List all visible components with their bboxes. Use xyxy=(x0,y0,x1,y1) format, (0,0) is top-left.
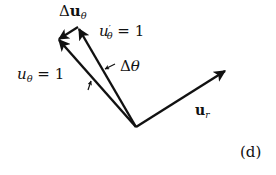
u-theta-prime-vector xyxy=(79,29,136,127)
symbol: u xyxy=(17,65,27,83)
u-r-label: ur xyxy=(195,103,210,120)
delta-theta-arrow-upper xyxy=(105,64,115,69)
delta-theta-label: Δθ xyxy=(120,59,140,74)
delta-theta-arrow-lower xyxy=(88,81,91,90)
u-theta-prime-label: u′θ = 1 xyxy=(99,24,144,41)
vector-symbol: u xyxy=(195,102,205,118)
subscript: θ xyxy=(81,10,87,21)
equals-one: = 1 xyxy=(113,22,145,40)
panel-label: (d) xyxy=(240,145,261,160)
u-r-vector xyxy=(136,71,225,127)
vector-diagram: Δuθ u′θ = 1 Δθ uθ = 1 ur (d) xyxy=(0,0,276,175)
u-theta-vector xyxy=(59,40,136,127)
delta-u-theta-label: Δuθ xyxy=(59,4,87,21)
u-theta-label: uθ = 1 xyxy=(17,67,64,84)
equals-one: = 1 xyxy=(33,65,65,83)
delta-symbol: Δ xyxy=(120,57,131,75)
subscript: r xyxy=(205,110,209,120)
delta-symbol: Δ xyxy=(59,2,70,20)
theta-symbol: θ xyxy=(131,57,140,75)
vector-symbol: u xyxy=(70,2,81,20)
delta-u-theta-vector xyxy=(59,27,78,39)
